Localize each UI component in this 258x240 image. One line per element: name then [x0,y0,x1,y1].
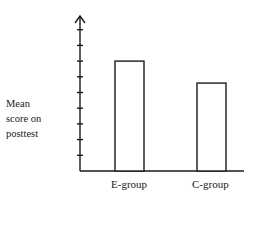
bar-e-group [115,61,144,171]
x-category-label-c-group: C-group [192,178,229,190]
y-axis-label: Mean score on posttest [6,96,76,141]
y-axis-label-line-2: score on [6,111,76,126]
x-category-label-e-group: E-group [111,178,147,190]
y-axis-label-line-1: Mean [6,96,76,111]
bar-c-group [197,83,226,171]
y-axis-label-line-3: posttest [6,126,76,141]
bars [115,61,226,171]
